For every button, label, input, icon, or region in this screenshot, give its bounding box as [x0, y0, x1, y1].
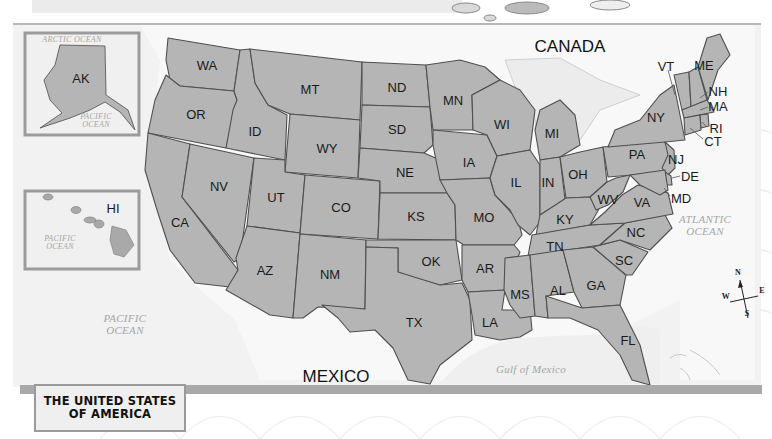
state-label-mn: MN	[443, 94, 463, 107]
state-label-nc: NC	[627, 226, 646, 239]
state-label-ct: CT	[704, 135, 721, 148]
state-label-nd: ND	[388, 81, 407, 94]
state-label-id: ID	[249, 125, 262, 138]
state-label-va: VA	[634, 196, 650, 209]
state-label-wa: WA	[197, 59, 217, 72]
state-label-wv: WV	[598, 193, 619, 206]
state-label-nv: NV	[210, 180, 228, 193]
state-label-wy: WY	[317, 142, 338, 155]
state-label-la: LA	[482, 316, 498, 329]
state-label-ak: AK	[72, 72, 89, 85]
state-label-al: AL	[550, 284, 566, 297]
state-label-tn: TN	[546, 240, 563, 253]
ocean-label-pacific-ak: PACIFIC OCEAN	[80, 113, 112, 130]
state-label-hi: HI	[107, 202, 120, 215]
state-label-mi: MI	[545, 127, 559, 140]
ocean-label-arctic: ARCTIC OCEAN	[42, 36, 101, 44]
state-ri	[700, 114, 709, 128]
country-label-mexico: MEXICO	[302, 368, 369, 385]
ocean-label-pacific-hi: PACIFIC OCEAN	[44, 235, 76, 252]
state-label-nj: NJ	[668, 153, 684, 166]
ocean-label-atlantic: ATLANTIC OCEAN	[679, 214, 731, 237]
state-label-wi: WI	[494, 118, 510, 131]
state-label-ma: MA	[708, 100, 728, 113]
map-title-box: THE UNITED STATES OF AMERICA	[34, 384, 186, 432]
state-label-ut: UT	[267, 191, 284, 204]
state-label-nh: NH	[709, 85, 728, 98]
state-label-fl: FL	[620, 334, 635, 347]
state-label-ca: CA	[171, 216, 189, 229]
map-title-line-2: OF AMERICA	[69, 408, 151, 421]
us-map	[0, 0, 772, 439]
state-label-tx: TX	[406, 316, 423, 329]
state-label-ar: AR	[476, 262, 494, 275]
state-label-in: IN	[542, 176, 555, 189]
state-label-mt: MT	[301, 83, 320, 96]
ocean-label-gulf-of-mexico: Gulf of Mexico	[496, 364, 566, 376]
state-label-ia: IA	[463, 156, 475, 169]
state-label-de: DE	[681, 170, 699, 183]
state-label-co: CO	[331, 201, 351, 214]
compass-s: S	[745, 310, 750, 318]
state-label-ne: NE	[396, 166, 414, 179]
country-label-canada: CANADA	[535, 38, 606, 55]
state-label-ok: OK	[422, 255, 441, 268]
state-label-az: AZ	[257, 264, 274, 277]
state-label-ny: NY	[647, 111, 665, 124]
ocean-label-pacific: PACIFIC OCEAN	[104, 313, 147, 336]
state-label-ms: MS	[510, 288, 530, 301]
state-label-il: IL	[511, 176, 522, 189]
state-label-nm: NM	[320, 268, 340, 281]
state-label-sd: SD	[388, 123, 406, 136]
state-label-mo: MO	[474, 211, 495, 224]
state-label-ks: KS	[407, 210, 424, 223]
state-label-ky: KY	[556, 213, 573, 226]
state-label-or: OR	[186, 108, 206, 121]
state-label-me: ME	[694, 59, 714, 72]
compass-n: N	[735, 269, 741, 277]
compass-e: E	[759, 287, 765, 295]
state-label-md: MD	[671, 192, 691, 205]
state-label-ga: GA	[587, 279, 606, 292]
state-label-pa: PA	[629, 148, 645, 161]
compass-w: W	[722, 293, 730, 301]
state-label-sc: SC	[615, 254, 633, 267]
state-label-vt: VT	[658, 60, 675, 73]
state-label-oh: OH	[568, 168, 588, 181]
